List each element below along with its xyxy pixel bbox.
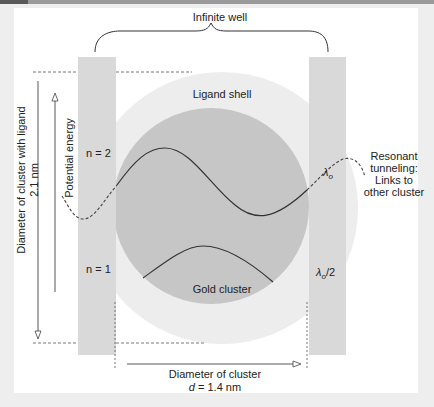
diameter-ligand-line-2: 2.1 nm — [28, 65, 41, 295]
level-n2-label: n = 2 — [86, 147, 111, 160]
left-wall — [78, 57, 116, 355]
resonant-tunneling-label: Resonant tunneling: Links to other clust… — [354, 150, 434, 198]
lambda-half-label: λo/2 — [316, 266, 335, 283]
lambda-half-suffix: /2 — [326, 266, 335, 278]
tunneling-line-2: tunneling: — [354, 162, 434, 174]
infinite-well-label: Infinite well — [170, 11, 270, 24]
tunneling-line-1: Resonant — [354, 150, 434, 162]
cluster-diameter-line-1: Diameter of cluster — [150, 368, 280, 381]
level-n1-label: n = 1 — [86, 263, 111, 276]
tunneling-line-4: other cluster — [354, 186, 434, 198]
lambda-o-label: λo — [323, 166, 333, 183]
gold-cluster-label: Gold cluster — [172, 283, 272, 296]
lambda-subscript: o — [328, 172, 332, 181]
potential-energy-label: Potential energy — [63, 98, 76, 218]
cluster-diameter-value: = 1.4 nm — [195, 381, 241, 393]
cluster-diameter-line-2: d = 1.4 nm — [150, 381, 280, 394]
potential-energy-arrowhead — [52, 93, 58, 101]
right-wall — [309, 57, 346, 355]
gold-cluster-circle — [113, 108, 309, 304]
infinite-well-brace — [95, 23, 328, 52]
diameter-ligand-label: Diameter of cluster with ligand 2.1 nm — [15, 65, 41, 295]
ligand-diameter-arrowhead — [35, 331, 41, 339]
ligand-shell-label: Ligand shell — [172, 88, 272, 101]
diameter-ligand-line-1: Diameter of cluster with ligand — [15, 65, 28, 295]
tunneling-line-3: Links to — [354, 174, 434, 186]
cluster-diameter-arrowhead — [293, 361, 301, 367]
cluster-diameter-label: Diameter of cluster d = 1.4 nm — [150, 368, 280, 394]
